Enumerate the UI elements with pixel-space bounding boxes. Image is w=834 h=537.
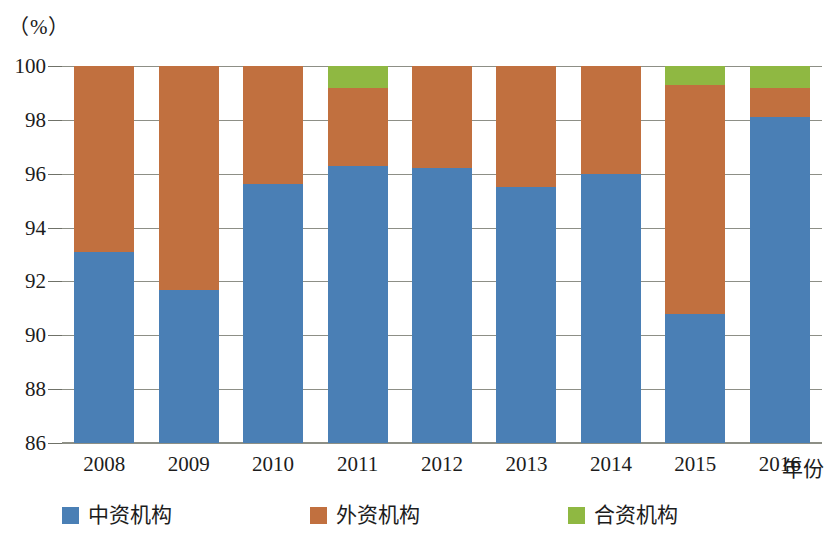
legend-swatch-icon-中资机构 — [62, 507, 79, 524]
y-tick-stub-100 — [48, 66, 62, 67]
legend-label: 合资机构 — [594, 505, 678, 526]
bar-segment-中资机构-2014[interactable] — [581, 174, 641, 443]
x-axis-tick-labels: 200820092010201120122013201420152016 — [62, 452, 822, 486]
y-tick-label-100: 100 — [15, 56, 47, 77]
bar-segment-中资机构-2015[interactable] — [665, 314, 725, 443]
y-tick-label-88: 88 — [25, 379, 46, 400]
plot-area — [62, 66, 822, 443]
bar-segment-外资机构-2009[interactable] — [159, 66, 219, 290]
y-axis-tick-labels: 10098969492908886 — [0, 66, 46, 443]
bar-segment-合资机构-2011[interactable] — [328, 66, 388, 88]
bar-segment-外资机构-2016[interactable] — [750, 88, 810, 118]
bar-group-2015[interactable] — [665, 66, 725, 443]
legend-item-合资机构[interactable]: 合资机构 — [568, 505, 678, 526]
y-tick-stub-90 — [48, 335, 62, 336]
legend-swatch-icon-合资机构 — [568, 507, 585, 524]
bar-segment-外资机构-2014[interactable] — [581, 66, 641, 174]
y-tick-label-98: 98 — [25, 109, 46, 130]
bar-segment-合资机构-2016[interactable] — [750, 66, 810, 88]
bar-segment-中资机构-2009[interactable] — [159, 290, 219, 443]
bar-group-2008[interactable] — [74, 66, 134, 443]
bar-segment-外资机构-2008[interactable] — [74, 66, 134, 252]
y-tick-label-94: 94 — [25, 217, 46, 238]
bar-segment-中资机构-2010[interactable] — [243, 184, 303, 443]
legend-item-外资机构[interactable]: 外资机构 — [310, 505, 420, 526]
bar-segment-中资机构-2016[interactable] — [750, 117, 810, 443]
y-tick-stub-88 — [48, 389, 62, 390]
bar-group-2009[interactable] — [159, 66, 219, 443]
legend-label: 中资机构 — [88, 505, 172, 526]
x-axis-title: 年份 — [782, 452, 824, 482]
x-tick-label-2012: 2012 — [421, 452, 463, 477]
bar-group-2012[interactable] — [412, 66, 472, 443]
y-tick-label-90: 90 — [25, 325, 46, 346]
x-tick-label-2015: 2015 — [674, 452, 716, 477]
bar-segment-外资机构-2011[interactable] — [328, 88, 388, 166]
legend-item-中资机构[interactable]: 中资机构 — [62, 505, 172, 526]
x-tick-label-2008: 2008 — [83, 452, 125, 477]
bar-segment-中资机构-2008[interactable] — [74, 252, 134, 443]
legend-label: 外资机构 — [336, 505, 420, 526]
y-tick-stub-86 — [48, 443, 62, 444]
x-tick-label-2010: 2010 — [252, 452, 294, 477]
y-tick-stub-98 — [48, 120, 62, 121]
y-tick-stub-94 — [48, 228, 62, 229]
x-tick-label-2014: 2014 — [590, 452, 632, 477]
legend-swatch-icon-外资机构 — [310, 507, 327, 524]
bar-group-2013[interactable] — [496, 66, 556, 443]
y-tick-label-86: 86 — [25, 433, 46, 454]
bar-segment-合资机构-2015[interactable] — [665, 66, 725, 85]
stacked-bar-chart: （%） 10098969492908886 200820092010201120… — [0, 0, 834, 537]
x-tick-label-2011: 2011 — [337, 452, 378, 477]
bar-segment-中资机构-2011[interactable] — [328, 166, 388, 443]
y-tick-stub-96 — [48, 174, 62, 175]
x-tick-label-2009: 2009 — [168, 452, 210, 477]
bar-segment-外资机构-2015[interactable] — [665, 85, 725, 314]
bar-group-2014[interactable] — [581, 66, 641, 443]
bar-segment-中资机构-2013[interactable] — [496, 187, 556, 443]
bar-segment-中资机构-2012[interactable] — [412, 168, 472, 443]
bar-segment-外资机构-2013[interactable] — [496, 66, 556, 187]
chart-legend: 中资机构外资机构合资机构 — [62, 505, 822, 535]
bar-segment-外资机构-2010[interactable] — [243, 66, 303, 184]
bar-group-2011[interactable] — [328, 66, 388, 443]
bar-group-2010[interactable] — [243, 66, 303, 443]
y-tick-label-92: 92 — [25, 271, 46, 292]
bar-group-2016[interactable] — [750, 66, 810, 443]
y-axis-unit-label: （%） — [8, 10, 71, 40]
y-tick-label-96: 96 — [25, 163, 46, 184]
y-tick-stub-92 — [48, 281, 62, 282]
bar-segment-外资机构-2012[interactable] — [412, 66, 472, 168]
x-tick-label-2013: 2013 — [505, 452, 547, 477]
